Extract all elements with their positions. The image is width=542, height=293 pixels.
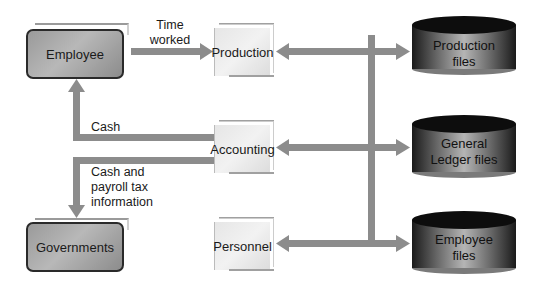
- arrow-cash: [73, 134, 214, 141]
- store-label-line2: Ledger files: [412, 152, 516, 168]
- store-label-line2: files: [412, 248, 516, 264]
- process-production: Production: [214, 28, 270, 76]
- process-production-label: Production: [211, 45, 273, 60]
- flow-label-cash-payroll-tax: Cash and payroll tax information: [91, 165, 153, 210]
- store-employee-files: Employee files: [412, 232, 516, 268]
- process-accounting: Accounting: [214, 125, 270, 173]
- entity-employee-label: Employee: [46, 47, 104, 62]
- decor-line: [229, 269, 274, 271]
- flow-label-time-worked: Time worked: [146, 18, 194, 48]
- flow-label-cash: Cash: [91, 120, 120, 135]
- store-production-files: Production files: [412, 38, 516, 74]
- store-gl-files: General Ledger files: [412, 136, 516, 172]
- flow-label-line: worked: [146, 33, 194, 48]
- arrow-time-worked: [131, 48, 201, 55]
- arrow-cash-payroll-tax: [73, 157, 214, 164]
- store-label-line1: Employee: [412, 232, 516, 248]
- flow-label-line: Time: [146, 18, 194, 33]
- process-accounting-label: Accounting: [210, 142, 274, 157]
- entity-governments-label: Governments: [36, 240, 114, 255]
- flow-label-line: Cash and: [91, 165, 153, 180]
- store-label-line1: General: [412, 136, 516, 152]
- process-personnel: Personnel: [214, 222, 270, 270]
- entity-governments: Governments: [26, 222, 124, 272]
- flow-label-line: information: [91, 195, 153, 210]
- flow-label-line: payroll tax: [91, 180, 153, 195]
- storage-bus: [368, 35, 375, 245]
- store-label-line2: files: [412, 54, 516, 70]
- store-label-line1: Production: [412, 38, 516, 54]
- process-personnel-label: Personnel: [213, 239, 272, 254]
- entity-employee: Employee: [26, 29, 124, 79]
- decor-line: [229, 172, 274, 174]
- flow-label-line: Cash: [91, 120, 120, 135]
- decor-line: [229, 75, 274, 77]
